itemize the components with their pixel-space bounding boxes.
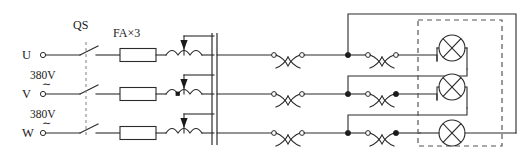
bus-tap-node [176, 92, 179, 95]
switch-blade-u[interactable] [80, 46, 98, 55]
row2-changeover-contact-1[interactable] [276, 94, 300, 107]
fuse-u[interactable] [120, 49, 156, 62]
phase-label-w: W [22, 126, 34, 140]
choke-v[interactable] [166, 75, 214, 94]
ac-symbol-uv: ∼ [42, 78, 51, 90]
circuit-schematic-svg: U V W 380V ∼ 380V ∼ QS FA×3 [0, 0, 530, 164]
phase-label-v: V [22, 87, 31, 101]
fuse-designator-label: FA×3 [113, 26, 140, 40]
lamp-2[interactable] [437, 74, 467, 108]
row1-changeover-contact-2[interactable] [370, 55, 394, 68]
terminal-w[interactable] [40, 130, 45, 135]
choke-w[interactable] [166, 114, 214, 133]
row3-changeover-contact-1[interactable] [276, 133, 300, 146]
lamp-1[interactable] [437, 35, 467, 69]
lamp-3[interactable] [420, 120, 516, 146]
row2-changeover-contact-2[interactable] [370, 94, 394, 107]
fuse-v[interactable] [120, 88, 156, 101]
choke-u[interactable] [166, 36, 214, 55]
circuit-diagram-root: U V W 380V ∼ 380V ∼ QS FA×3 [0, 0, 530, 164]
ac-symbol-vw: ∼ [42, 117, 51, 129]
phase-label-u: U [22, 48, 31, 62]
switch-blade-v[interactable] [80, 85, 98, 94]
choke-tap-arrow-v [180, 79, 187, 89]
fuse-w[interactable] [120, 127, 156, 140]
choke-tap-arrow-w [180, 118, 187, 128]
switch-designator-label: QS [73, 18, 88, 32]
row3-changeover-contact-2[interactable] [370, 133, 394, 146]
choke-tap-arrow-u [180, 40, 187, 50]
terminal-u[interactable] [40, 52, 45, 57]
switch-blade-w[interactable] [80, 124, 98, 133]
row1-changeover-contact-1[interactable] [276, 55, 300, 68]
terminal-v[interactable] [40, 91, 45, 96]
